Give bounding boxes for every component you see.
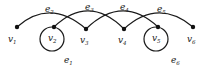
edge-label-e2: e2 bbox=[45, 4, 54, 15]
node-v1 bbox=[15, 25, 19, 29]
node-v5 bbox=[156, 25, 160, 29]
node-label-v6: v6 bbox=[187, 34, 196, 45]
node-v3 bbox=[84, 27, 88, 31]
edge-label-e6: e6 bbox=[171, 55, 180, 66]
edge-label-e4: e4 bbox=[120, 2, 129, 13]
node-label-v4: v4 bbox=[118, 35, 127, 46]
node-v6 bbox=[191, 25, 195, 29]
node-label-v3: v3 bbox=[80, 35, 89, 46]
edge-label-e3: e3 bbox=[85, 2, 94, 13]
node-label-v1: v1 bbox=[8, 34, 17, 45]
node-v2 bbox=[52, 25, 56, 29]
edge-label-e5: e5 bbox=[157, 4, 166, 15]
graph-diagram: v1v2v3v4v5v6e1e2e3e4e5e6 bbox=[0, 0, 204, 66]
edge-label-e1: e1 bbox=[64, 55, 73, 66]
node-label-v5: v5 bbox=[152, 33, 161, 44]
node-label-v2: v2 bbox=[48, 33, 57, 44]
node-v4 bbox=[122, 27, 126, 31]
